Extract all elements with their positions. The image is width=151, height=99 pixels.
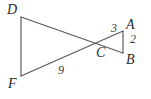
measure-label-fc: 9 xyxy=(58,64,64,76)
vertex-label-a: A xyxy=(126,18,135,32)
segment-FA xyxy=(21,31,123,76)
geometry-figure: D F A B C 3 2 9 xyxy=(0,0,151,99)
segment-DB xyxy=(21,17,123,53)
vertex-label-b: B xyxy=(126,53,135,67)
vertex-label-d: D xyxy=(7,3,17,17)
vertex-label-f: F xyxy=(8,77,17,91)
vertex-label-c: C xyxy=(96,46,105,60)
measure-label-ab: 2 xyxy=(130,33,136,45)
measure-label-ca: 3 xyxy=(111,22,117,34)
figure-canvas xyxy=(0,0,151,99)
